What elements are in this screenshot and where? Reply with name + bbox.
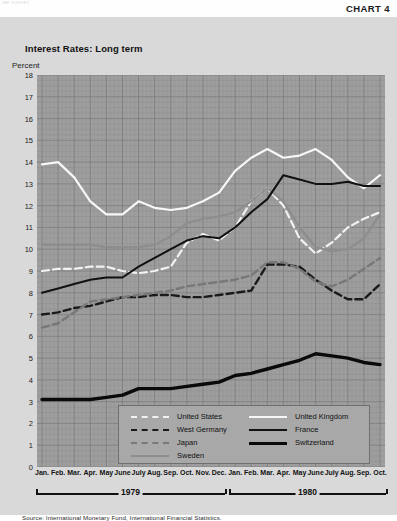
x-axis-tick: Sep. xyxy=(356,469,371,476)
x-axis-tick: July xyxy=(325,469,339,476)
legend-swatch xyxy=(131,442,169,444)
x-axis-tick: Sep. xyxy=(163,469,178,476)
x-axis-tick: Oct. xyxy=(373,469,387,476)
y-axis-tick: 12 xyxy=(25,201,33,210)
legend-label: Sweden xyxy=(177,450,204,462)
y-axis-tick: 15 xyxy=(25,136,33,145)
x-axis-tick: Aug. xyxy=(340,469,356,476)
y-axis-tick: 9 xyxy=(29,267,33,276)
x-axis-tick: Apr. xyxy=(83,469,97,476)
y-axis-tick: 13 xyxy=(25,179,33,188)
y-axis-tick: 7 xyxy=(29,310,33,319)
legend-swatch xyxy=(249,429,287,431)
chart-title: Interest Rates: Long term xyxy=(25,43,143,54)
y-axis-tick-labels: 0123456789101112131415161718 xyxy=(0,75,37,475)
y-axis-tick: 3 xyxy=(29,397,33,406)
x-axis-tick: Apr. xyxy=(277,469,291,476)
legend-swatch xyxy=(249,442,287,445)
x-axis-tick: June xyxy=(307,469,323,476)
y-axis-tick: 2 xyxy=(29,419,33,428)
legend-label: West Germany xyxy=(177,424,227,436)
x-axis-tick: Feb. xyxy=(51,469,65,476)
y-axis-tick: 0 xyxy=(29,463,33,472)
y-axis-tick: 4 xyxy=(29,375,33,384)
legend-label: Japan xyxy=(177,437,197,449)
year-label: 1979 xyxy=(118,487,143,497)
year-axis-band: 19791980 xyxy=(37,487,389,503)
x-axis-tick: Jan. xyxy=(35,469,49,476)
legend-swatch xyxy=(249,416,287,418)
year-rule-tick xyxy=(36,489,38,494)
legend-label: United Kingdom xyxy=(295,411,348,423)
y-axis-tick: 14 xyxy=(25,158,33,167)
legend-label: France xyxy=(295,424,318,436)
year-label: 1980 xyxy=(295,487,320,497)
x-axis-tick: Mar. xyxy=(67,469,81,476)
x-axis-tick: May xyxy=(293,469,307,476)
x-axis-tick: Aug. xyxy=(147,469,163,476)
chart-panel: Interest Rates: Long term Percent 012345… xyxy=(0,17,397,515)
x-axis-tick: Nov. xyxy=(196,469,211,476)
y-axis-tick: 17 xyxy=(25,92,33,101)
legend-swatch xyxy=(131,455,169,457)
chart-legend: United StatesWest GermanyJapanSwedenUnit… xyxy=(118,405,370,464)
legend-swatch xyxy=(131,416,169,418)
y-axis-tick: 18 xyxy=(25,71,33,80)
x-axis-tick-labels: Jan.Feb.Mar.Apr.MayJuneJulyAug.Sep.Oct.N… xyxy=(37,469,389,485)
chart-number-label: CHART 4 xyxy=(346,3,390,14)
y-axis-tick: 16 xyxy=(25,114,33,123)
year-rule-tick xyxy=(386,489,388,494)
x-axis-tick: July xyxy=(132,469,146,476)
legend-swatch xyxy=(131,429,169,431)
legend-label: United States xyxy=(177,411,222,423)
top-strip: IMF SURVEY CHART 4 xyxy=(0,0,397,17)
x-axis-tick: May xyxy=(100,469,114,476)
legend-label: Switzerland xyxy=(295,437,334,449)
x-axis-tick: Dec. xyxy=(212,469,227,476)
x-axis-tick: Feb. xyxy=(244,469,258,476)
y-axis-unit-label: Percent xyxy=(12,61,40,70)
y-axis-tick: 1 xyxy=(29,441,33,450)
y-axis-tick: 6 xyxy=(29,332,33,341)
x-axis-tick: June xyxy=(114,469,130,476)
y-axis-tick: 5 xyxy=(29,354,33,363)
y-axis-tick: 11 xyxy=(25,223,33,232)
year-rule-tick xyxy=(225,489,227,494)
x-axis-tick: Oct. xyxy=(180,469,194,476)
source-note: Source: International Monetary Fund, Int… xyxy=(22,514,222,521)
publication-mark: IMF SURVEY xyxy=(2,0,29,5)
year-rule-tick xyxy=(229,489,231,494)
y-axis-tick: 8 xyxy=(29,288,33,297)
y-axis-tick: 10 xyxy=(25,245,33,254)
x-axis-tick: Mar. xyxy=(260,469,274,476)
x-axis-tick: Jan. xyxy=(228,469,242,476)
